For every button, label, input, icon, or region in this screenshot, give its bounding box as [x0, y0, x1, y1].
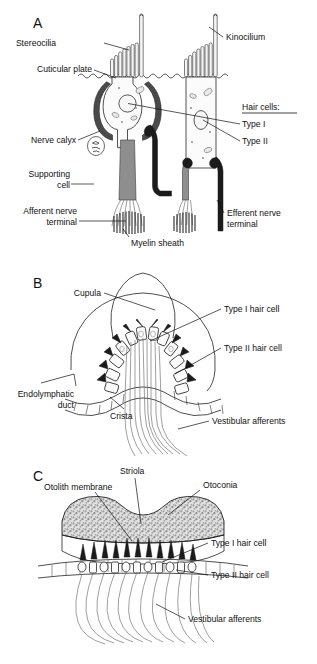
type-i-nucleus — [119, 95, 136, 112]
type-ii-hair-cell-diagram — [174, 14, 223, 233]
label-type-ii: Type II — [242, 136, 268, 146]
panel-c-letter: C — [33, 468, 43, 484]
type-i-hair-cell-diagram — [94, 14, 172, 234]
label-otoconia: Otoconia — [203, 480, 238, 490]
label-hair-cells-heading: Hair cells: — [242, 102, 280, 112]
type-ii-nucleus — [194, 111, 208, 130]
label-cuticular-plate: Cuticular plate — [37, 64, 92, 74]
label-striola: Striola — [120, 466, 145, 476]
stereocilia-bundle-type-ii — [185, 43, 213, 77]
crista-supporting-cell-divisions — [74, 391, 223, 414]
label-nerve-calyx: Nerve calyx — [31, 135, 77, 145]
label-vestibular-afferents-b: Vestibular afferents — [212, 416, 285, 426]
afferent-nerve-trunk — [119, 140, 136, 200]
panel-a: A — [16, 14, 297, 248]
label-endolymphatic-1: Endolymphatic — [18, 389, 75, 399]
label-supporting-cell-2: cell — [57, 180, 70, 190]
label-myelin-sheath: Myelin sheath — [131, 238, 184, 248]
stereocilia-bundle-type-i — [111, 43, 139, 77]
figure-vestibular-hair-cells: A — [0, 0, 317, 664]
figure-canvas: A — [0, 0, 317, 664]
label-endolymphatic-2: duct — [58, 400, 75, 410]
label-stereocilia: Stereocilia — [16, 38, 56, 48]
label-type-i: Type I — [242, 119, 265, 129]
label-afferent-1: Afferent nerve — [23, 206, 77, 216]
kinocilium-type-i — [140, 14, 144, 77]
kinocilium-type-ii — [214, 14, 218, 77]
label-crista: Crista — [110, 411, 133, 421]
label-cupula: Cupula — [74, 288, 101, 298]
macula-afferent-fibers — [76, 572, 214, 644]
label-efferent-2: terminal — [227, 219, 258, 229]
label-afferent-2: terminal — [46, 217, 77, 227]
label-type-ii-hair-cell-b: Type II hair cell — [224, 343, 282, 353]
panel-c-labels: Striola Otolith membrane Otoconia Type I… — [44, 466, 269, 624]
crista-surface-upper — [65, 387, 221, 404]
afferent-fibers-type-ii — [177, 200, 193, 225]
panel-a-letter: A — [33, 15, 43, 31]
macula-hair-cell-bodies — [78, 562, 196, 573]
label-otolith-membrane: Otolith membrane — [44, 482, 113, 492]
panel-b: B — [18, 273, 286, 456]
panel-c: C — [33, 466, 269, 644]
crista-surface-lower — [65, 398, 221, 416]
cupula-inner-right — [143, 273, 175, 338]
macula-surface-upper — [38, 559, 248, 566]
myelin-sheath-hatching-type-ii — [174, 212, 195, 233]
otoconia-layer — [62, 496, 224, 543]
label-kinocilium: Kinocilium — [226, 32, 265, 42]
label-type-ii-hair-cell-c: Type II hair cell — [211, 570, 269, 580]
label-supporting-cell-1: Supporting — [28, 169, 70, 179]
label-type-i-hair-cell-c: Type I hair cell — [211, 538, 266, 548]
label-vestibular-afferents-c: Vestibular afferents — [188, 614, 261, 624]
label-type-i-hair-cell-b: Type I hair cell — [224, 304, 279, 314]
label-efferent-1: Efferent nerve — [227, 208, 281, 218]
supporting-cell-diagram — [88, 137, 105, 156]
panel-b-letter: B — [33, 275, 42, 291]
